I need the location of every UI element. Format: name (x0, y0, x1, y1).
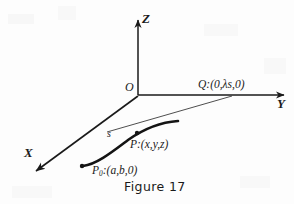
q-ray-line (107, 96, 232, 132)
z-axis-label: Z (142, 12, 150, 25)
point-p0-dot (80, 164, 84, 168)
figure-caption: Figure 17 (124, 179, 186, 194)
arc-length-label: s (107, 129, 111, 139)
coordinate-axes-diagram (0, 0, 294, 204)
point-p-dot (135, 131, 139, 135)
figure-container: Z Y X O Q:(0,λs,0) P:(x,y,z) P0:(a,b,0) … (0, 0, 294, 204)
point-p0-label: P0:(a,b,0) (92, 165, 137, 177)
origin-label: O (125, 81, 134, 93)
x-axis-line (36, 96, 138, 171)
point-p-label: P:(x,y,z) (130, 139, 168, 151)
y-axis-label: Y (277, 97, 285, 110)
point-q-label: Q:(0,λs,0) (198, 79, 245, 91)
x-axis-label: X (24, 146, 33, 159)
point-p0-label-main: P (92, 164, 99, 176)
point-p0-label-coords: :(a,b,0) (103, 164, 138, 176)
